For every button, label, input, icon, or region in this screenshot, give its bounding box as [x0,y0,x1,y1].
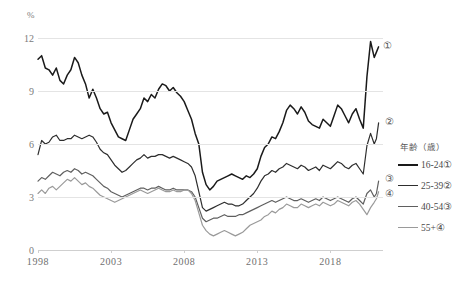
x-axis-tick-label: 2013 [246,256,268,267]
y-axis-tick-label: 6 [8,139,34,150]
legend-item[interactable]: 55+④ [398,222,473,233]
x-axis-tick-label: 2003 [100,256,122,267]
legend-item[interactable]: 25-39② [398,180,473,191]
y-axis-tick-label: 0 [8,245,34,256]
series-callout: ④ [385,187,394,198]
series-line [38,169,379,222]
series-callout: ① [383,40,392,51]
plot-area [38,38,383,250]
legend-item-label: 40-54③ [421,201,452,212]
legend-swatch-icon [398,164,418,166]
series-callout: ② [385,116,394,127]
chart-container: % 036912 19982003200820132018 年齢（歳） 16-2… [0,0,473,284]
gridline [38,91,383,92]
y-axis-tick-label: 9 [8,86,34,97]
legend-item-label: 16-24① [421,159,452,170]
x-axis-ticks: 19982003200820132018 [38,253,383,273]
legend-swatch-icon [398,227,418,228]
x-axis-tick-mark [257,250,258,253]
series-callout: ③ [385,173,394,184]
y-axis-tick-label: 12 [8,33,34,44]
x-axis-tick-mark [38,250,39,253]
x-axis-tick-label: 2008 [173,256,195,267]
y-axis-tick-label: 3 [8,192,34,203]
gridline [38,38,383,39]
gridline [38,197,383,198]
gridline [38,144,383,145]
series-line [38,178,379,236]
x-axis-tick-label: 1998 [27,256,49,267]
y-axis-unit-label: % [27,10,35,20]
x-axis-tick-mark [111,250,112,253]
legend-swatch-icon [398,206,418,207]
legend-title: 年齢（歳） [400,140,473,152]
legend-swatch-icon [398,185,418,186]
legend-item-label: 25-39② [421,180,452,191]
legend-item[interactable]: 16-24① [398,159,473,170]
legend-items: 16-24①25-39②40-54③55+④ [398,159,473,233]
x-axis-tick-mark [330,250,331,253]
legend-item-label: 55+④ [421,222,445,233]
legend-item[interactable]: 40-54③ [398,201,473,212]
x-axis-tick-mark [184,250,185,253]
y-axis-ticks: 036912 [0,38,34,250]
legend: 年齢（歳） 16-24①25-39②40-54③55+④ [398,140,473,243]
x-axis-tick-label: 2018 [319,256,341,267]
